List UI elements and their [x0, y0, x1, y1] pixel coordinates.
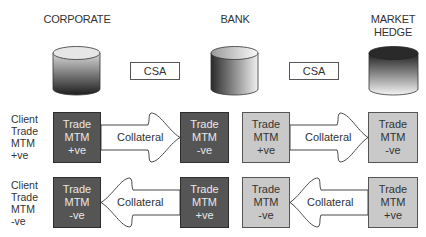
bank-label-text: BANK — [220, 13, 249, 25]
client-label-row1: Client Trade MTM +ve — [11, 113, 38, 161]
client-label-row2: Client Trade MTM -ve — [11, 179, 38, 227]
bank-cylinder-icon — [211, 47, 258, 96]
party-label-corporate: CORPORATE — [36, 13, 118, 26]
trade-box-bank-hedge-row2: Trade MTM -ve — [242, 177, 290, 228]
csa-label: CSA — [303, 65, 326, 77]
client-label-line: Trade — [11, 191, 38, 203]
trade-box-market-hedge-row1: Trade MTM -ve — [368, 112, 418, 163]
corporate-label-text: CORPORATE — [43, 13, 110, 25]
trade-box-market-hedge-row2: Trade MTM +ve — [368, 177, 418, 228]
client-label-line: -ve — [11, 215, 38, 227]
trade-box-line: Trade — [369, 118, 417, 131]
trade-box-line: +ve — [369, 209, 417, 222]
trade-box-bank-hedge-row1: Trade MTM +ve — [242, 112, 290, 163]
market-hedge-label-line1: MARKET — [360, 13, 426, 26]
trade-box-line: -ve — [243, 209, 289, 222]
trade-box-line: MTM — [54, 196, 100, 209]
trade-box-line: -ve — [54, 209, 100, 222]
collateral-label-row1-left: Collateral — [117, 131, 163, 143]
collateral-text: Collateral — [117, 196, 163, 208]
collateral-text: Collateral — [305, 131, 351, 143]
csa-box-bank-hedge: CSA — [289, 62, 339, 80]
trade-box-line: MTM — [369, 196, 417, 209]
trade-box-bank-client-row2: Trade MTM +ve — [180, 177, 229, 228]
trade-box-line: Trade — [243, 183, 289, 196]
trade-box-line: MTM — [243, 196, 289, 209]
collateral-text: Collateral — [117, 131, 163, 143]
trade-box-line: +ve — [243, 144, 289, 157]
market-hedge-cylinder-icon — [369, 47, 418, 96]
trade-box-line: MTM — [181, 131, 228, 144]
client-label-line: Client — [11, 113, 38, 125]
trade-box-line: -ve — [369, 144, 417, 157]
trade-box-line: MTM — [243, 131, 289, 144]
client-label-line: Client — [11, 179, 38, 191]
csa-box-corporate-bank: CSA — [130, 62, 180, 80]
client-label-line: Trade — [11, 125, 38, 137]
collateral-label-row2-left: Collateral — [117, 196, 163, 208]
client-label-line: MTM — [11, 203, 38, 215]
trade-box-line: MTM — [54, 131, 100, 144]
trade-box-line: MTM — [369, 131, 417, 144]
trade-box-line: Trade — [369, 183, 417, 196]
trade-box-bank-client-row1: Trade MTM -ve — [180, 112, 229, 163]
trade-box-line: -ve — [181, 144, 228, 157]
trade-box-line: +ve — [54, 144, 100, 157]
trade-box-line: Trade — [54, 183, 100, 196]
client-label-line: +ve — [11, 149, 38, 161]
csa-label: CSA — [144, 65, 167, 77]
client-label-line: MTM — [11, 137, 38, 149]
corporate-cylinder-icon — [53, 47, 100, 96]
trade-box-line: Trade — [181, 183, 228, 196]
trade-box-line: Trade — [243, 118, 289, 131]
party-label-bank: BANK — [200, 13, 270, 26]
party-label-market-hedge: MARKET HEDGE — [360, 13, 426, 39]
trade-box-line: Trade — [181, 118, 228, 131]
trade-box-line: MTM — [181, 196, 228, 209]
collateral-label-row2-right: Collateral — [307, 196, 353, 208]
collateral-text: Collateral — [307, 196, 353, 208]
trade-box-corporate-row1: Trade MTM +ve — [53, 112, 101, 163]
market-hedge-label-line2: HEDGE — [360, 26, 426, 39]
trade-box-corporate-row2: Trade MTM -ve — [53, 177, 101, 228]
trade-box-line: +ve — [181, 209, 228, 222]
collateral-label-row1-right: Collateral — [305, 131, 351, 143]
trade-box-line: Trade — [54, 118, 100, 131]
